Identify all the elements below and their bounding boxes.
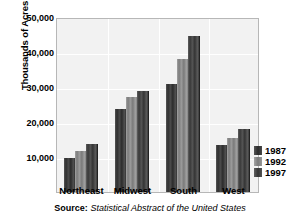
y-tick-label: 20,000	[12, 119, 54, 127]
x-category-label: South	[158, 185, 209, 196]
x-category-label: Northeast	[56, 185, 107, 196]
bar-group	[159, 19, 210, 192]
legend-item: 1987	[254, 145, 298, 156]
legend-swatch	[254, 157, 262, 166]
legend-label: 1997	[265, 168, 286, 178]
legend-item: 1997	[254, 167, 298, 178]
x-category-label: West	[208, 185, 259, 196]
legend-swatch	[254, 168, 262, 177]
bar	[238, 129, 250, 192]
bar-group	[209, 19, 260, 192]
bar-group	[57, 19, 108, 192]
plot-area	[56, 18, 259, 193]
source-note: Source: Statistical Abstract of the Unit…	[0, 203, 300, 213]
y-tick-label: 30,000	[12, 84, 54, 92]
legend-item: 1992	[254, 156, 298, 167]
y-tick-label: 50,000	[12, 14, 54, 22]
bar	[188, 36, 200, 192]
legend-label: 1992	[265, 157, 286, 167]
legend-label: 1987	[265, 146, 286, 156]
x-category-label: Midwest	[107, 185, 158, 196]
legend-swatch	[254, 146, 262, 155]
bar-group	[108, 19, 159, 192]
source-text: Statistical Abstract of the United State…	[90, 203, 245, 213]
y-tick-label: 40,000	[12, 49, 54, 57]
legend: 198719921997	[254, 145, 298, 178]
bar	[137, 91, 149, 193]
y-axis-tick-labels: 50,00040,00030,00020,00010,000	[12, 0, 54, 219]
source-label: Source:	[54, 203, 88, 213]
bar-chart-figure: Thousands of Acres 50,00040,00030,00020,…	[0, 0, 300, 219]
y-tick-label: 10,000	[12, 154, 54, 162]
x-axis-category-labels: NortheastMidwestSouthWest	[56, 185, 259, 198]
